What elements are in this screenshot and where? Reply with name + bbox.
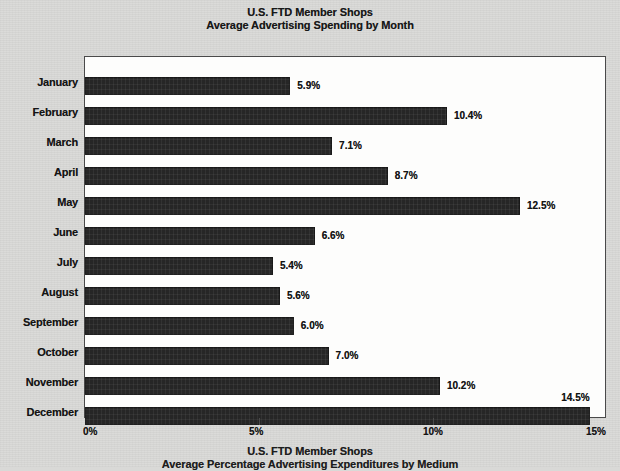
bar-value-july: 5.4% — [280, 260, 303, 271]
y-axis-label-june: June — [0, 226, 78, 238]
bar-value-march: 7.1% — [339, 140, 362, 151]
y-axis-label-october: October — [0, 346, 78, 358]
next-chart-title-line-2: Average Percentage Advertising Expenditu… — [0, 458, 620, 471]
bar-row: 5.4% — [85, 253, 605, 283]
bar-row: 10.2% — [85, 373, 605, 403]
y-axis-label-september: September — [0, 316, 78, 328]
y-axis-label-may: May — [0, 196, 78, 208]
bar-row: 5.6% — [85, 283, 605, 313]
y-axis-label-august: August — [0, 286, 78, 298]
bar-value-september: 6.0% — [301, 320, 324, 331]
bar-row: 5.9% — [85, 73, 605, 103]
next-chart-title: U.S. FTD Member Shops Average Percentage… — [0, 445, 620, 471]
chart-title: U.S. FTD Member Shops Average Advertisin… — [0, 6, 620, 32]
bar-row: 8.7% — [85, 163, 605, 193]
bar-value-june: 6.6% — [322, 230, 345, 241]
chart-title-line-1: U.S. FTD Member Shops — [0, 6, 620, 19]
y-axis-label-march: March — [0, 136, 78, 148]
bar-value-january: 5.9% — [297, 80, 320, 91]
y-axis-label-january: January — [0, 76, 78, 88]
bar-row: 7.1% — [85, 133, 605, 163]
x-axis-label-15pct: 15% — [586, 426, 606, 437]
bar-value-october: 7.0% — [336, 350, 359, 361]
y-axis-label-february: February — [0, 106, 78, 118]
bar-august — [85, 287, 280, 305]
x-axis-label-5pct: 5% — [249, 426, 263, 437]
x-axis-label-10pct: 10% — [423, 426, 443, 437]
plot-area: 5.9%10.4%7.1%8.7%12.5%6.6%5.4%5.6%6.0%7.… — [84, 56, 606, 418]
bar-row: 10.4% — [85, 103, 605, 133]
bar-value-may: 12.5% — [527, 200, 555, 211]
x-axis-tick-10pct — [433, 418, 434, 425]
bar-january — [85, 77, 290, 95]
bar-december — [85, 407, 590, 425]
y-axis-label-november: November — [0, 376, 78, 388]
bar-value-november: 10.2% — [447, 380, 475, 391]
y-axis-label-december: December — [0, 406, 78, 418]
bar-march — [85, 137, 332, 155]
x-axis-tick-5pct — [259, 418, 260, 425]
bar-november — [85, 377, 440, 395]
bar-row: 7.0% — [85, 343, 605, 373]
bar-row: 12.5% — [85, 193, 605, 223]
bar-row: 14.5% — [85, 403, 605, 433]
bar-row: 6.6% — [85, 223, 605, 253]
chart-title-line-2: Average Advertising Spending by Month — [0, 19, 620, 32]
bar-value-december: 14.5% — [546, 392, 590, 403]
x-axis-label-0pct: 0% — [83, 426, 97, 437]
y-axis-label-july: July — [0, 256, 78, 268]
bar-value-february: 10.4% — [454, 110, 482, 121]
y-axis-label-april: April — [0, 166, 78, 178]
bar-value-april: 8.7% — [395, 170, 418, 181]
bar-row: 6.0% — [85, 313, 605, 343]
bar-value-august: 5.6% — [287, 290, 310, 301]
next-chart-title-line-1: U.S. FTD Member Shops — [0, 445, 620, 458]
bar-july — [85, 257, 273, 275]
bar-october — [85, 347, 329, 365]
bar-april — [85, 167, 388, 185]
bar-september — [85, 317, 294, 335]
bar-june — [85, 227, 315, 245]
bar-may — [85, 197, 520, 215]
bar-february — [85, 107, 447, 125]
